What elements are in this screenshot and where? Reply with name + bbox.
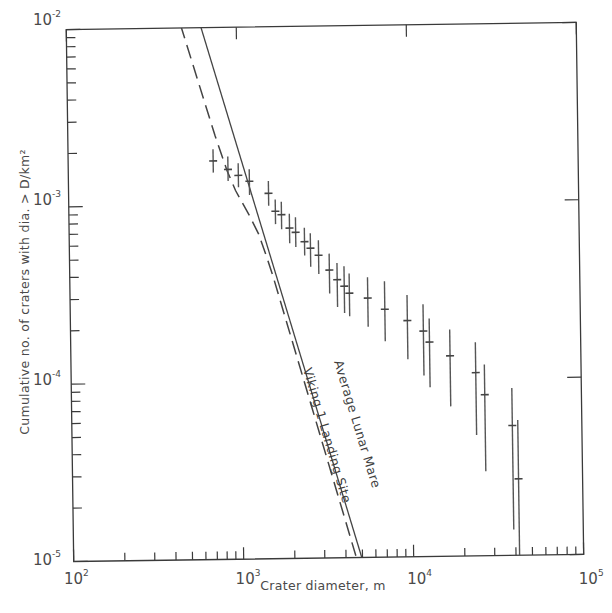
error-bar <box>512 388 514 530</box>
x-axis-label: Crater diameter, m <box>260 578 385 593</box>
error-bar <box>407 295 408 359</box>
x-tick-label: 102 <box>64 568 89 588</box>
x-tick-label: 105 <box>579 568 604 588</box>
data-point <box>363 277 372 327</box>
error-bar <box>384 281 385 341</box>
data-point <box>271 199 279 224</box>
y-tick-exponent: -4 <box>52 369 61 379</box>
y-tick-label: 10-4 <box>33 369 61 389</box>
crater-density-chart: Average Lunar MareViking 1 Landing Site … <box>0 0 612 613</box>
data-point <box>345 273 354 316</box>
y-axis-label: Cumulative no. of craters with dia. > D/… <box>17 149 32 435</box>
error-bar <box>518 420 520 555</box>
y-tick-label: 10-2 <box>33 9 61 29</box>
data-point <box>508 388 518 530</box>
data-point <box>446 329 455 406</box>
data-point <box>314 240 322 274</box>
y-tick-label: 10-5 <box>33 549 61 569</box>
data-point <box>325 254 334 294</box>
data-point <box>209 149 217 173</box>
data-point <box>340 266 349 313</box>
error-bar <box>329 254 330 294</box>
data-point <box>403 295 412 360</box>
data-point <box>380 281 389 341</box>
y-tick-exponent: -3 <box>52 189 61 199</box>
data-point <box>224 156 232 181</box>
data-point <box>514 420 524 555</box>
plot-area: Average Lunar MareViking 1 Landing Site <box>66 19 583 561</box>
y-tick-label: 10-3 <box>33 189 61 209</box>
data-point <box>300 228 308 256</box>
error-bar <box>450 329 451 406</box>
error-bar <box>429 318 430 387</box>
error-bar <box>484 364 485 471</box>
x-tick-label: 103 <box>236 568 261 588</box>
y-tick-exponent: -5 <box>52 549 61 559</box>
x-tick-exponent: 4 <box>426 568 432 578</box>
error-bar <box>337 263 338 307</box>
data-point <box>291 217 299 247</box>
data-point <box>333 263 342 307</box>
data-point <box>234 163 242 187</box>
data-point <box>471 342 480 435</box>
data-point <box>419 304 428 375</box>
x-tick-exponent: 5 <box>598 568 604 578</box>
data-point <box>277 202 285 230</box>
x-tick-label: 104 <box>407 568 432 588</box>
error-bar <box>349 274 350 317</box>
error-bar <box>367 277 368 326</box>
tick-labels: 10210310410510-210-310-410-5 <box>33 9 604 588</box>
data-point <box>306 233 314 267</box>
axis-ticks <box>66 22 583 561</box>
data-point <box>425 318 434 387</box>
error-bar <box>475 342 476 435</box>
data-point <box>285 214 293 244</box>
data-points <box>209 145 524 560</box>
curve-labels: Average Lunar MareViking 1 Landing Site <box>300 358 384 505</box>
data-point <box>245 169 253 195</box>
error-bar <box>344 266 345 313</box>
error-bar <box>423 304 424 375</box>
data-point <box>480 364 489 471</box>
x-tick-exponent: 3 <box>255 568 261 578</box>
plot-frame <box>66 22 583 561</box>
data-point <box>264 181 272 206</box>
x-tick-exponent: 2 <box>83 568 89 578</box>
y-tick-exponent: -2 <box>52 9 61 19</box>
